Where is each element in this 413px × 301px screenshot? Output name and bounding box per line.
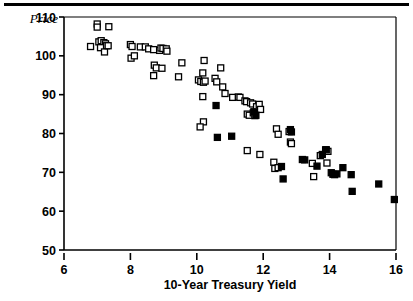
data-point-open-square (159, 65, 165, 71)
data-point-open-square (164, 48, 170, 54)
data-point-open-square (105, 43, 111, 49)
data-point-open-square (275, 131, 281, 137)
data-point-open-square (214, 79, 220, 85)
data-point-filled-square (214, 134, 220, 140)
x-tick-label: 8 (127, 263, 134, 277)
data-point-filled-square (280, 176, 286, 182)
y-tick-label: 90 (42, 88, 56, 102)
data-point-open-square (244, 148, 250, 154)
data-point-open-square (106, 24, 112, 30)
x-tick-label-group: 6810121416 (61, 263, 403, 277)
data-point-filled-square (348, 172, 354, 178)
data-point-filled-square (278, 164, 284, 170)
y-axis-label: Price (29, 11, 58, 26)
data-point-open-square (201, 57, 207, 63)
data-point-open-square (197, 124, 203, 130)
data-point-open-square (218, 65, 224, 71)
data-point-open-square (257, 151, 263, 157)
data-point-open-square (202, 78, 208, 84)
y-tick-label-group: 5060708090100110 (35, 11, 56, 258)
data-point-open-square (179, 60, 185, 66)
data-point-open-square (151, 47, 157, 53)
data-point-open-square (311, 174, 317, 180)
data-point-open-square (288, 141, 294, 147)
x-tick-label: 10 (190, 263, 204, 277)
x-axis-label: 10-Year Treasury Yield (164, 278, 297, 292)
y-tick-label: 50 (42, 244, 56, 258)
data-point-open-square (88, 44, 94, 50)
data-point-open-square (200, 94, 206, 100)
data-point-filled-square (376, 181, 382, 187)
x-tick-label: 16 (389, 263, 403, 277)
data-point-open-square (222, 91, 228, 97)
y-tick-label: 100 (35, 49, 56, 63)
data-point-open-square (131, 53, 137, 59)
data-point-group (88, 21, 398, 203)
data-point-filled-square (323, 147, 329, 153)
data-point-filled-square (349, 188, 355, 194)
data-point-filled-square (340, 165, 346, 171)
y-tick-label: 80 (42, 127, 56, 141)
data-point-open-square (102, 49, 108, 55)
data-point-open-square (151, 73, 157, 79)
data-point-open-square (94, 24, 100, 30)
plot-canvas: 5060708090100110 6810121416 Price 10-Yea… (0, 0, 413, 301)
x-tick-label: 12 (256, 263, 270, 277)
x-tick-label: 6 (61, 263, 68, 277)
data-point-open-square (220, 84, 226, 90)
data-point-open-square (258, 106, 264, 112)
data-point-open-square (324, 160, 330, 166)
y-tick-label: 60 (42, 205, 56, 219)
y-tick-label: 70 (42, 166, 56, 180)
data-point-open-square (176, 74, 182, 80)
data-point-filled-square (229, 133, 235, 139)
data-point-open-square (200, 70, 206, 76)
scatter-plot-figure: 5060708090100110 6810121416 Price 10-Yea… (0, 0, 413, 301)
x-tick-label: 14 (323, 263, 337, 277)
data-point-filled-square (288, 129, 294, 135)
x-tick-group (64, 253, 396, 260)
data-point-filled-square (391, 197, 397, 203)
data-point-filled-square (302, 157, 308, 163)
data-point-filled-square (253, 112, 259, 118)
data-point-filled-square (213, 103, 219, 109)
data-point-open-square (129, 44, 135, 50)
data-point-filled-square (334, 171, 340, 177)
data-point-filled-square (314, 163, 320, 169)
